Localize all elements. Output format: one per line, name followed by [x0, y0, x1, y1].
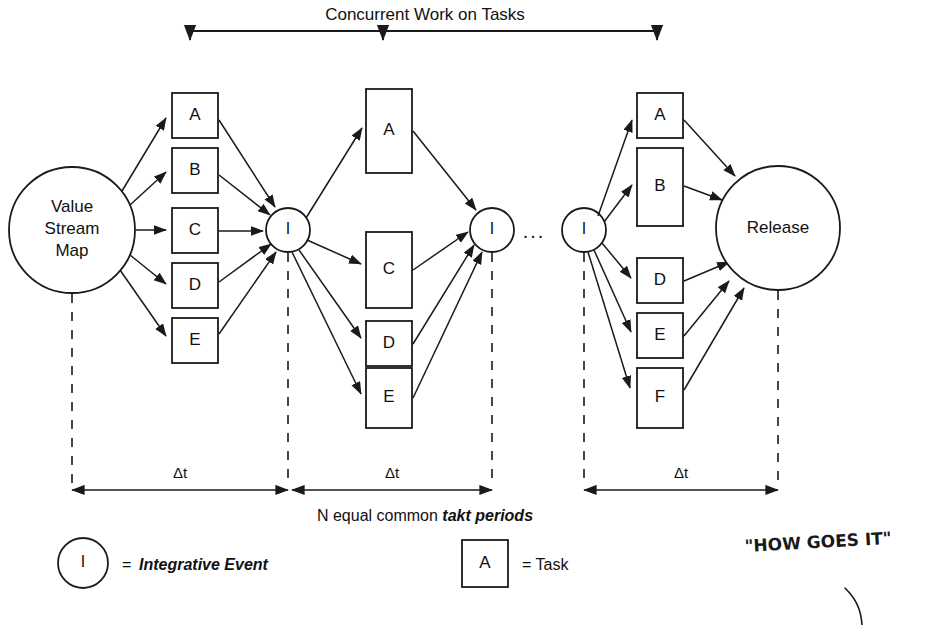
- column-1-tasks: A B C D E: [172, 93, 218, 363]
- legend-event-label: Integrative Event: [139, 556, 269, 573]
- task-label: A: [654, 105, 666, 124]
- interval-label: Δt: [173, 464, 188, 481]
- event-label: I: [286, 220, 290, 237]
- column-2-tasks: A C D E: [366, 89, 412, 428]
- interval-label: Δt: [385, 464, 400, 481]
- release-node: Release: [716, 166, 840, 290]
- release-label: Release: [747, 218, 809, 237]
- integrative-event-node: I: [562, 208, 606, 252]
- integrative-event-node: I: [470, 208, 514, 252]
- task-box: A: [637, 93, 683, 138]
- legend-event-symbol: I: [81, 553, 85, 570]
- diagram-canvas: Concurrent Work on Tasks Value Stream Ma…: [0, 0, 943, 625]
- task-label: D: [654, 270, 666, 289]
- value-stream-map-line-1: Value: [51, 197, 93, 216]
- task-box: A: [366, 89, 412, 173]
- task-label: B: [189, 160, 200, 179]
- task-label: C: [383, 259, 395, 278]
- takt-interval-3: Δt: [584, 464, 778, 490]
- takt-interval-1: Δt: [72, 464, 288, 490]
- task-box: E: [637, 313, 683, 358]
- handwritten-note: "HOW GOES IT": [744, 528, 892, 556]
- concurrent-engineering-diagram: Concurrent Work on Tasks Value Stream Ma…: [0, 0, 943, 625]
- value-stream-map-node: Value Stream Map: [9, 167, 135, 293]
- task-label: B: [654, 176, 665, 195]
- task-label: E: [189, 330, 200, 349]
- task-label: D: [189, 275, 201, 294]
- diagram-title: Concurrent Work on Tasks: [325, 5, 525, 24]
- legend-integrative-event: I = Integrative Event: [58, 538, 269, 588]
- interval-label: Δt: [674, 464, 689, 481]
- legend-task-equals: = Task: [522, 556, 569, 573]
- handwritten-annotation: "HOW GOES IT": [744, 528, 892, 625]
- task-box: D: [366, 321, 412, 366]
- legend-task-symbol: A: [479, 553, 491, 572]
- task-label: F: [655, 387, 665, 406]
- handwritten-bracket-stroke: [845, 588, 862, 625]
- concurrency-bracket: [190, 31, 660, 40]
- ellipsis-separator: ...: [523, 220, 546, 242]
- event-label: I: [582, 220, 586, 237]
- task-box: D: [172, 263, 218, 308]
- value-stream-map-line-3: Map: [55, 241, 88, 260]
- task-box: C: [366, 232, 412, 308]
- task-label: E: [654, 325, 665, 344]
- task-box: F: [637, 368, 683, 428]
- takt-caption-emphasis: takt periods: [442, 507, 533, 524]
- legend-event-equals: =: [122, 556, 131, 573]
- task-box: E: [172, 318, 218, 363]
- task-label: D: [383, 333, 395, 352]
- task-box: C: [172, 208, 218, 253]
- takt-caption-plain: N equal common: [317, 507, 442, 524]
- value-stream-map-line-2: Stream: [45, 219, 100, 238]
- task-label: A: [383, 120, 395, 139]
- task-label: E: [383, 387, 394, 406]
- integrative-event-node: I: [266, 208, 310, 252]
- legend-task: A = Task: [462, 540, 569, 587]
- event1-to-column2-edges: [292, 128, 362, 394]
- task-label: A: [189, 105, 201, 124]
- task-label: C: [189, 220, 201, 239]
- takt-caption: N equal common takt periods: [317, 507, 533, 524]
- task-box: B: [172, 148, 218, 193]
- task-box: B: [637, 148, 683, 226]
- takt-interval-2: Δt: [292, 464, 492, 490]
- task-box: D: [637, 258, 683, 303]
- column-3-tasks: A B D E F: [637, 93, 683, 428]
- event3-to-column3-edges: [588, 120, 632, 388]
- column2-to-event2-edges: [413, 131, 482, 398]
- event-label: I: [490, 220, 494, 237]
- task-box: E: [366, 368, 412, 428]
- task-box: A: [172, 93, 218, 138]
